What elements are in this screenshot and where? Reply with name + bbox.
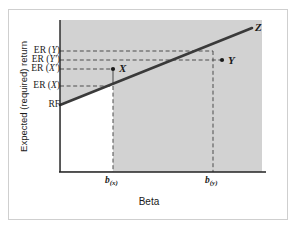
y-tick-label-er-x-prime: ER (X') (31, 64, 60, 74)
figure-canvas: ER (Y) ER (Y') ER (X') ER (X) RF b(x) b(… (0, 0, 298, 230)
point-marker-x (111, 67, 115, 71)
point-marker-y (220, 58, 224, 62)
risk-free-rate-label: RF (48, 100, 60, 110)
y-axis-title: Expected (required) return (18, 22, 29, 172)
shaded-region (60, 20, 262, 172)
point-label-x: X (119, 63, 126, 74)
x-tick-label-b-x: b(x) (105, 176, 118, 187)
point-label-z: Z (255, 22, 262, 33)
shaded-region-group (60, 20, 262, 172)
x-axis-title: Beta (0, 196, 298, 207)
y-tick-label-er-x: ER (X) (33, 81, 60, 91)
x-tick-label-b-y: b(y) (205, 176, 218, 187)
point-label-y: Y (228, 55, 235, 66)
